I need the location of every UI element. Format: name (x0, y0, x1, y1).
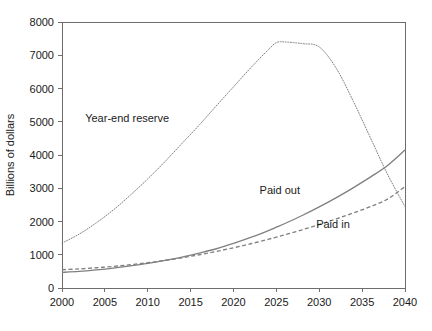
series-line-year-end-reserve (62, 42, 405, 243)
series-label-paid-in: Paid in (316, 218, 350, 230)
series-label-year-end-reserve: Year-end reserve (85, 112, 169, 124)
x-tick-label: 2030 (307, 296, 331, 308)
chart-container: 0100020003000400050006000700080002000200… (0, 0, 432, 331)
x-tick-label: 2015 (178, 296, 202, 308)
x-tick-label: 2005 (93, 296, 117, 308)
y-tick-label: 2000 (30, 216, 54, 228)
series-label-paid-out: Paid out (260, 184, 300, 196)
line-chart: 0100020003000400050006000700080002000200… (0, 0, 432, 331)
x-tick-label: 2020 (221, 296, 245, 308)
plot-frame (62, 22, 405, 288)
x-tick-label: 2010 (136, 296, 160, 308)
x-tick-label: 2025 (264, 296, 288, 308)
y-tick-label: 1000 (30, 249, 54, 261)
x-tick-label: 2000 (50, 296, 74, 308)
y-tick-label: 7000 (30, 49, 54, 61)
y-tick-label: 6000 (30, 83, 54, 95)
y-tick-label: 8000 (30, 16, 54, 28)
x-tick-label: 2035 (350, 296, 374, 308)
y-tick-label: 0 (48, 282, 54, 294)
y-axis-title: Billions of dollars (4, 113, 16, 196)
y-tick-label: 4000 (30, 149, 54, 161)
x-tick-label: 2040 (393, 296, 417, 308)
series-line-paid-out (62, 150, 405, 272)
y-tick-label: 3000 (30, 182, 54, 194)
series-line-paid-in (62, 187, 405, 270)
y-tick-label: 5000 (30, 116, 54, 128)
